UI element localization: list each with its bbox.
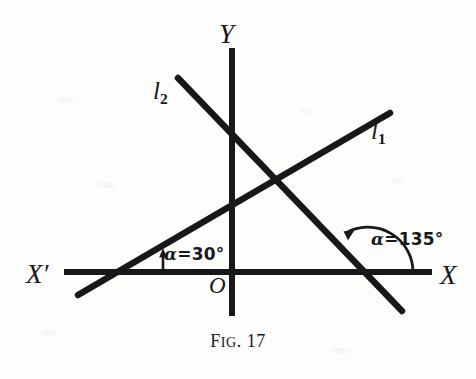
angle-label-30: α=30° [164,246,225,263]
equals-symbol-135: = [384,229,398,249]
angle-label-135: α=135° [371,231,444,248]
alpha-symbol-135: α [371,229,384,249]
line-label-l2: l2 [153,78,168,106]
caption-suffix: . 17 [237,331,266,351]
caption-smallcaps: IG [221,334,237,350]
figure-caption: FIG. 17 [0,331,476,352]
line-label-l1: l1 [371,118,386,146]
geometry-diagram [0,0,476,379]
origin-label: O [209,274,226,297]
angle-value-30: 30° [192,244,225,264]
line-label-l2-subscript: 2 [160,90,168,107]
caption-prefix: F [210,331,221,351]
axis-label-x-prime: X′ [26,261,48,288]
line-label-l2-base: l [153,77,160,104]
alpha-symbol-30: α [164,244,177,264]
figure-17: Y X X′ O l1 l2 α=30° α=135° FIG. 17 [0,0,476,379]
axis-label-x: X [440,262,457,289]
equals-symbol-30: = [177,244,191,264]
axis-label-y: Y [219,21,234,48]
line-label-l1-base: l [371,117,378,144]
angle-value-135: 135° [399,229,444,249]
line-label-l1-subscript: 1 [378,130,386,147]
